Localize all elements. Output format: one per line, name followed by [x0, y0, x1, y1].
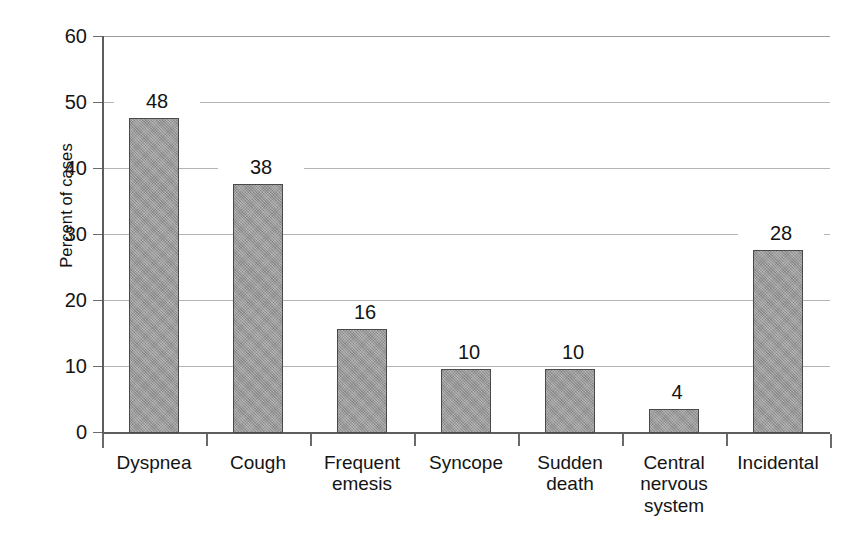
- bar-value-label: 10: [530, 342, 616, 362]
- bar: [337, 329, 387, 433]
- y-axis-title: Percent of cases: [57, 106, 76, 306]
- x-tick-mark-7: [830, 434, 832, 448]
- category-label: Frequent emesis: [310, 452, 414, 495]
- x-tick-mark-0: [102, 434, 104, 448]
- gridline-10: [102, 366, 830, 367]
- bar-chart: Percent of cases 0102030405060 483816101…: [0, 0, 857, 551]
- category-label: Cough: [206, 452, 310, 473]
- category-label: Sudden death: [518, 452, 622, 495]
- x-tick-mark-1: [206, 434, 208, 446]
- bar: [233, 184, 283, 433]
- category-label: Syncope: [414, 452, 518, 473]
- y-tick-label-0: 0: [39, 422, 87, 442]
- y-tick-mark-10: [93, 366, 102, 367]
- y-tick-label-10: 10: [39, 356, 87, 376]
- bar-value-label: 10: [426, 342, 512, 362]
- bar-value-label: 4: [634, 382, 720, 402]
- category-label: Central nervous system: [622, 452, 726, 516]
- y-tick-mark-50: [93, 102, 102, 103]
- x-tick-mark-5: [622, 434, 624, 446]
- bar: [649, 409, 699, 433]
- y-tick-mark-0: [93, 432, 102, 433]
- y-axis-line: [102, 36, 104, 433]
- bar: [129, 118, 179, 433]
- bar-value-label: 38: [218, 157, 304, 177]
- x-tick-mark-6: [726, 434, 728, 446]
- category-label: Incidental: [726, 452, 830, 473]
- bar: [545, 369, 595, 433]
- y-tick-label-50: 50: [39, 92, 87, 112]
- x-tick-mark-4: [518, 434, 520, 446]
- gridline-50: [102, 102, 830, 103]
- y-tick-label-60: 60: [39, 26, 87, 46]
- y-tick-mark-60: [93, 36, 102, 37]
- y-tick-label-20: 20: [39, 290, 87, 310]
- category-label: Dyspnea: [102, 452, 206, 473]
- y-tick-mark-20: [93, 300, 102, 301]
- x-tick-mark-2: [310, 434, 312, 446]
- bar-value-label: 28: [738, 223, 824, 243]
- bar-value-label: 16: [322, 302, 408, 322]
- gridline-60: [102, 36, 830, 37]
- y-tick-mark-40: [93, 168, 102, 169]
- gridline-40: [102, 168, 830, 169]
- y-tick-label-30: 30: [39, 224, 87, 244]
- bar: [441, 369, 491, 433]
- gridline-20: [102, 300, 830, 301]
- bar: [753, 250, 803, 433]
- x-tick-mark-3: [414, 434, 416, 446]
- gridline-30: [102, 234, 830, 235]
- y-tick-mark-30: [93, 234, 102, 235]
- y-tick-label-40: 40: [39, 158, 87, 178]
- bar-value-label: 48: [114, 91, 200, 111]
